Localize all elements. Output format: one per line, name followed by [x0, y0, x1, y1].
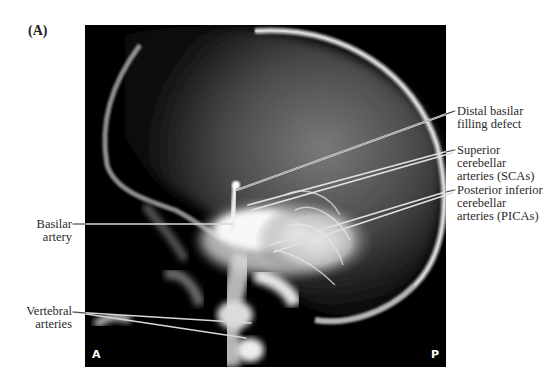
angiogram-image	[85, 25, 446, 367]
label-distal-basilar-filling-defect: Distal basilar filling defect	[457, 105, 523, 131]
label-vertebral-arteries: Vertebral arteries	[0, 305, 72, 331]
panel-letter: (A)	[28, 23, 47, 39]
label-superior-cerebellar-arteries: Superior cerebellar arteries (SCAs)	[457, 144, 534, 183]
posterior-marker: P	[431, 348, 439, 361]
anterior-marker: A	[92, 348, 101, 361]
label-basilar-artery: Basilar artery	[10, 218, 72, 244]
label-posterior-inferior-cerebellar-arteries: Posterior inferior cerebellar arteries (…	[457, 184, 543, 223]
